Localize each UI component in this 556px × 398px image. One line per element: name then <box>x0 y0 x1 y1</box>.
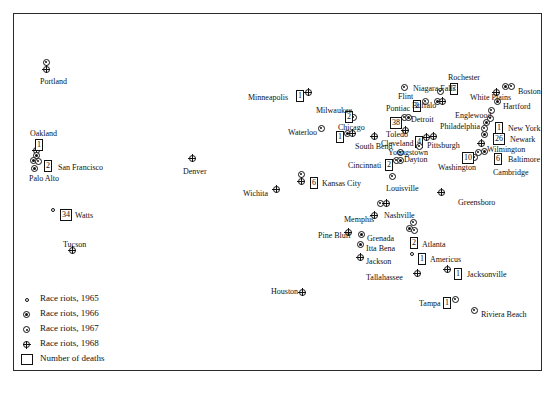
city-label-minneapolis: Minneapolis <box>248 93 288 102</box>
deaths-count-tampa: 1 <box>443 297 451 309</box>
marker-center-dot <box>359 243 362 246</box>
marker-center-dot <box>379 202 381 204</box>
city-label-atlanta: Atlanta <box>422 240 446 249</box>
legend-symbol-1967 <box>23 326 30 333</box>
marker-center-dot <box>407 116 410 119</box>
city-label-philadelphia: Philadelphia <box>440 122 480 131</box>
legend-row-deaths: Number of deaths <box>14 352 164 367</box>
city-label-dayton: Dayton <box>404 155 428 164</box>
city-label-pittsburgh: Pittsburgh <box>427 141 460 150</box>
riot-marker-jackson-1968 <box>357 254 364 261</box>
riot-marker-nashville-1968 <box>383 200 390 207</box>
deaths-count-atlanta: 2 <box>410 237 418 249</box>
marker-center-dot <box>413 229 415 231</box>
riot-marker-grenada-1966 <box>358 231 365 238</box>
marker-cross-horizontal <box>297 181 305 182</box>
deaths-count-baltimore: 6 <box>494 153 502 165</box>
city-label-cleveland: Cleveland <box>381 139 413 148</box>
city-label-waterloo: Waterloo <box>288 128 317 137</box>
marker-ring <box>410 252 414 256</box>
city-label-jackson: Jackson <box>366 257 391 266</box>
riot-marker-pittsburgh-1968 <box>430 133 437 140</box>
riot-marker-minneapolis-1968 <box>305 89 312 96</box>
riot-marker-boston-1967 <box>508 83 515 90</box>
legend-row-1967: Race riots, 1967 <box>14 322 164 337</box>
marker-cross-horizontal <box>429 136 437 137</box>
deaths-count-minneapolis: 1 <box>296 90 304 102</box>
marker-cross-horizontal <box>348 133 356 134</box>
deaths-count-watts: 34 <box>60 209 72 221</box>
marker-ring <box>51 208 55 212</box>
city-label-rochester: Rochester <box>448 73 480 82</box>
city-label-washington: Washington <box>438 163 476 172</box>
city-label-nashville: Nashville <box>384 211 415 220</box>
marker-cross-horizontal <box>304 92 312 93</box>
deaths-count-oakland: 1 <box>35 139 43 151</box>
riot-marker-newark-1966 <box>481 131 488 138</box>
legend-symbol-1965 <box>23 296 30 303</box>
marker-cross-horizontal <box>437 192 445 193</box>
riot-marker-wilmington-1968 <box>478 140 485 147</box>
city-label-tallahassee: Tallahassee <box>366 273 403 282</box>
marker-center-dot <box>25 313 28 316</box>
marker-cross-horizontal <box>413 273 421 274</box>
marker-center-dot <box>510 85 512 87</box>
marker-center-dot <box>45 61 47 63</box>
riot-marker-itta-bena-1966 <box>357 241 364 248</box>
riot-marker-portland-1968 <box>43 66 50 73</box>
city-label-greensboro: Greensboro <box>458 198 495 207</box>
marker-center-dot <box>412 221 414 223</box>
riot-marker-san-francisco-1967 <box>35 158 42 165</box>
marker-center-dot <box>26 329 28 331</box>
marker-center-dot <box>360 233 363 236</box>
riot-marker-buffalo-1968 <box>439 98 446 105</box>
city-label-flint: Flint <box>398 92 413 101</box>
legend-row-1966: Race riots, 1966 <box>14 307 164 322</box>
city-label-new-york: New York <box>508 124 540 133</box>
marker-cross-horizontal <box>188 158 196 159</box>
legend-row-1965: Race riots, 1965 <box>14 292 164 307</box>
city-label-denver: Denver <box>183 167 207 176</box>
marker-center-dot <box>483 127 485 129</box>
marker-center-dot <box>418 145 420 147</box>
legend-row-1968: Race riots, 1968 <box>14 337 164 352</box>
deaths-count-cincinnati: 2 <box>385 159 393 171</box>
riot-marker-denver-1968 <box>189 155 196 162</box>
marker-center-dot <box>454 298 456 300</box>
marker-cross-horizontal <box>443 269 451 270</box>
marker-center-dot <box>37 160 39 162</box>
marker-cross-horizontal <box>272 189 280 190</box>
legend-deaths-label: Number of deaths <box>40 353 104 363</box>
riot-marker-houston-1968 <box>299 289 306 296</box>
marker-center-dot <box>473 309 475 311</box>
riot-marker-waterloo-1967 <box>318 125 325 132</box>
marker-center-dot <box>403 86 405 88</box>
city-label-hartford: Hartford <box>503 102 531 111</box>
marker-center-dot <box>300 173 302 175</box>
city-label-buffalo: Buffalo <box>412 101 436 110</box>
riot-marker-south-bend-1968 <box>371 133 378 140</box>
riot-marker-americus-1965 <box>409 251 416 258</box>
city-label-white-plains: White Plains <box>470 93 511 102</box>
city-label-toledo: Toledo <box>386 130 408 139</box>
marker-cross-horizontal <box>477 143 485 144</box>
marker-center-dot <box>483 133 486 136</box>
marker-cross-horizontal <box>23 344 31 345</box>
legend-deaths-box-icon <box>21 354 33 365</box>
legend-label-1965: Race riots, 1965 <box>40 293 99 303</box>
city-label-kansas-city: Kansas City <box>322 179 361 188</box>
city-label-wichita: Wichita <box>243 189 268 198</box>
marker-cross-horizontal <box>438 101 446 102</box>
riot-marker-palo-alto-1966 <box>31 165 38 172</box>
riot-marker-jacksonville-1968 <box>444 266 451 273</box>
city-label-grenada: Grenada <box>367 234 394 243</box>
city-label-jacksonville: Jacksonville <box>467 270 507 279</box>
riot-marker-louisville-1967 <box>389 173 396 180</box>
race-riots-map: 123461212384271266102111 PortlandOakland… <box>0 0 556 398</box>
marker-center-dot <box>504 85 507 88</box>
marker-cross-horizontal <box>68 250 76 251</box>
marker-cross-horizontal <box>382 203 390 204</box>
city-label-itta-bena: Itta Bena <box>366 244 395 253</box>
city-label-louisville: Louisville <box>386 184 418 193</box>
marker-center-dot <box>391 175 393 177</box>
